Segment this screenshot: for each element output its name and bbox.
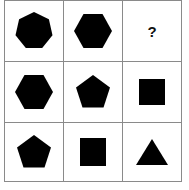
cell-r1-c3: ?	[123, 1, 181, 62]
triangle-icon	[135, 138, 169, 166]
hexagon-icon	[73, 11, 113, 51]
cell-r3-c1	[5, 123, 64, 181]
cell-r1-c1	[5, 1, 64, 62]
cell-r1-c2	[64, 1, 123, 62]
puzzle-grid: ?	[4, 0, 182, 182]
pentagon-icon	[16, 134, 52, 170]
cell-r3-c3	[123, 123, 181, 181]
cell-r3-c2	[64, 123, 123, 181]
cell-r2-c2	[64, 62, 123, 123]
cell-r2-c1	[5, 62, 64, 123]
hexagon-icon	[14, 72, 54, 112]
heptagon-icon	[14, 11, 54, 51]
square-icon	[79, 137, 107, 167]
cell-r2-c3	[123, 62, 181, 123]
square-icon	[138, 78, 166, 106]
question-mark: ?	[147, 23, 156, 40]
pentagon-icon	[75, 74, 111, 110]
